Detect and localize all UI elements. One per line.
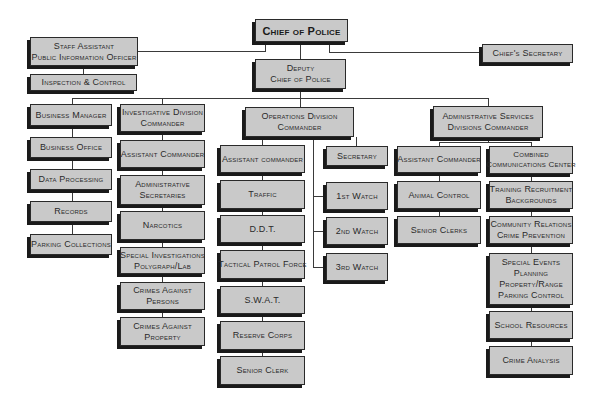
connector [300, 98, 301, 107]
crime-analysis-box: Crime Analysis [489, 346, 573, 375]
ops-secretary-box: Secretary [326, 146, 388, 166]
adm-assistant-commander-box: Assistant Commander [397, 146, 481, 173]
business-office-box: Business Office [30, 137, 112, 158]
school-resources-box: School Resources [489, 311, 573, 339]
community-relations-box: Community Relations Crime Prevention [489, 216, 573, 244]
senior-clerks-box: Senior Clerks [397, 216, 481, 244]
connector [488, 138, 489, 142]
connector [329, 52, 482, 53]
tactical-patrol-force-box: Tactical Patrol Force [220, 250, 305, 279]
second-watch-box: 2nd Watch [326, 217, 388, 245]
connector [300, 89, 301, 98]
connector [313, 231, 326, 232]
reserve-corps-box: Reserve Corps [220, 321, 305, 350]
connector [265, 42, 266, 52]
data-processing-box: Data Processing [30, 169, 112, 190]
operations-division-box: Operations Division Commander [245, 107, 354, 137]
connector [329, 42, 330, 52]
investigative-division-box: Investigative Division Commander [120, 104, 205, 132]
third-watch-box: 3rd Watch [326, 253, 388, 281]
connector [300, 42, 301, 59]
parking-collections-box: Parking Collections [30, 234, 112, 255]
connector [313, 137, 314, 267]
first-watch-box: 1st Watch [326, 182, 388, 210]
administrative-services-box: Administrative Services Divisions Comman… [433, 106, 543, 138]
connector [313, 196, 326, 197]
training-recruitment-box: Training Recruitment Backgrounds [489, 181, 573, 209]
connector [72, 98, 489, 99]
staff-assistant-box: Staff Assistant Public Information Offic… [30, 37, 138, 66]
special-investigations-box: Special Investigations Polygraph/Lab [120, 247, 205, 274]
connector [83, 66, 84, 74]
crimes-against-persons-box: Crimes Against Persons [120, 282, 205, 310]
business-manager-box: Business Manager [30, 104, 112, 126]
animal-control-box: Animal Control [397, 181, 481, 209]
administrative-secretaries-box: Administrative Secretaries [120, 175, 205, 205]
chief-of-police-box: Chief of Police [255, 19, 348, 42]
deputy-chief-box: Deputy Chief of Police [255, 59, 346, 89]
swat-box: S.W.A.T. [220, 286, 305, 314]
combined-communications-box: Combined Communications Center [489, 146, 573, 174]
crimes-against-property-box: Crimes Against Property [120, 317, 205, 346]
ddt-box: D.D.T. [220, 215, 305, 243]
ops-assistant-commander-box: Assistant commander [220, 145, 305, 173]
traffic-box: Traffic [220, 180, 305, 209]
senior-clerk-box: Senior Clerk [220, 356, 305, 385]
inspection-control-box: Inspection & Control [30, 74, 137, 91]
connector [313, 267, 326, 268]
records-box: Records [30, 201, 112, 222]
connector [138, 51, 265, 52]
narcotics-box: Narcotics [120, 211, 205, 240]
chiefs-secretary-box: Chief's Secretary [482, 44, 573, 63]
connector [356, 137, 357, 146]
connector [488, 98, 489, 106]
inv-assistant-commander-box: Assistant Commander [120, 140, 205, 168]
special-events-box: Special Events Planning Property/Range P… [489, 253, 573, 305]
connector [439, 142, 531, 143]
